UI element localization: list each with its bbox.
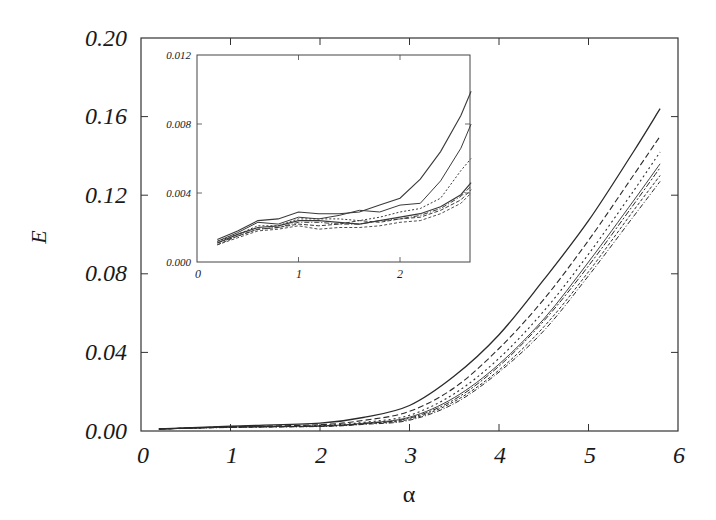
y-tick-label: 0.08 bbox=[85, 260, 127, 286]
y-tick-label: 0.12 bbox=[85, 182, 127, 208]
main-x-tick-labels: 0 1 2 3 4 5 6 bbox=[137, 442, 685, 468]
y-tick-label: 0.00 bbox=[85, 418, 127, 444]
inset-y-tick-label: 0.000 bbox=[166, 256, 191, 268]
inset-x-tick-labels: 0 1 2 bbox=[195, 267, 403, 281]
figure: 0 1 2 3 4 5 6 0.00 0.04 0.08 0.12 0.16 0… bbox=[0, 0, 716, 520]
inset-y-tick-label: 0.012 bbox=[166, 49, 191, 61]
x-tick-label: 4 bbox=[494, 442, 506, 468]
x-tick-label: 0 bbox=[137, 442, 149, 468]
inset-y-tick-label: 0.004 bbox=[166, 187, 191, 199]
x-tick-label: 2 bbox=[315, 442, 327, 468]
inset-x-tick-label: 2 bbox=[397, 267, 403, 281]
inset-plot: 0 1 2 0.000 0.004 0.008 0.012 bbox=[166, 49, 471, 281]
main-y-tick-labels: 0.00 0.04 0.08 0.12 0.16 0.20 bbox=[85, 25, 127, 444]
inset-y-tick-labels: 0.000 0.004 0.008 0.012 bbox=[166, 49, 191, 268]
y-tick-label: 0.04 bbox=[85, 339, 127, 365]
x-tick-label: 1 bbox=[226, 442, 238, 468]
inset-x-tick-label: 0 bbox=[195, 267, 201, 281]
x-tick-label: 3 bbox=[404, 442, 417, 468]
x-axis-title: α bbox=[403, 481, 416, 507]
x-tick-label: 5 bbox=[584, 442, 596, 468]
y-tick-label: 0.20 bbox=[85, 25, 127, 51]
inset-x-tick-label: 1 bbox=[296, 267, 302, 281]
inset-y-tick-label: 0.008 bbox=[166, 118, 191, 130]
y-axis-title: E bbox=[26, 230, 51, 245]
x-tick-label: 6 bbox=[673, 442, 685, 468]
y-tick-label: 0.16 bbox=[85, 103, 127, 129]
